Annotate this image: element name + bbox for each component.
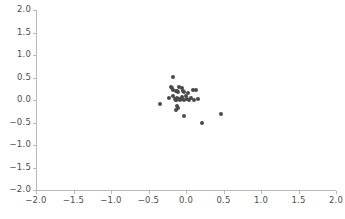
x-tick-label: 0.0 (179, 195, 193, 205)
y-tick-label: 1.0 (17, 49, 31, 59)
x-tick-mark (299, 191, 300, 194)
x-tick-mark (261, 191, 262, 194)
data-point (176, 90, 180, 94)
data-point (158, 102, 162, 106)
y-tick-label: −0.5 (10, 117, 31, 127)
x-tick-mark (74, 191, 75, 194)
x-tick-label: 1.0 (254, 195, 268, 205)
x-tick-label: −2.0 (25, 195, 46, 205)
y-tick-label: −2.0 (10, 184, 31, 194)
plot-area (36, 10, 336, 190)
x-tick-label: 0.5 (216, 195, 230, 205)
data-point (219, 112, 223, 116)
y-tick-label: 1.5 (17, 27, 31, 37)
y-tick-label: 0.0 (17, 94, 31, 104)
x-tick-mark (224, 191, 225, 194)
scatter-plot-figure: −2.0−1.5−1.0−0.50.00.51.01.52.0 −2.0−1.5… (0, 0, 345, 219)
x-tick-mark (36, 191, 37, 194)
y-tick-label: −1.0 (10, 139, 31, 149)
data-point (200, 121, 204, 125)
data-point (196, 97, 200, 101)
x-tick-mark (186, 191, 187, 194)
x-tick-mark (336, 191, 337, 194)
data-point (174, 108, 178, 112)
x-tick-mark (149, 191, 150, 194)
x-tick-label: 1.5 (291, 195, 305, 205)
data-point (171, 75, 175, 79)
x-tick-mark (111, 191, 112, 194)
y-tick-label: −1.5 (10, 162, 31, 172)
x-tick-label: −0.5 (138, 195, 159, 205)
y-tick-label: 2.0 (17, 4, 31, 14)
x-tick-label: −1.5 (63, 195, 84, 205)
data-point (182, 114, 186, 118)
x-tick-label: 2.0 (329, 195, 343, 205)
y-tick-label: 0.5 (17, 72, 31, 82)
data-point (194, 88, 198, 92)
x-tick-label: −1.0 (100, 195, 121, 205)
